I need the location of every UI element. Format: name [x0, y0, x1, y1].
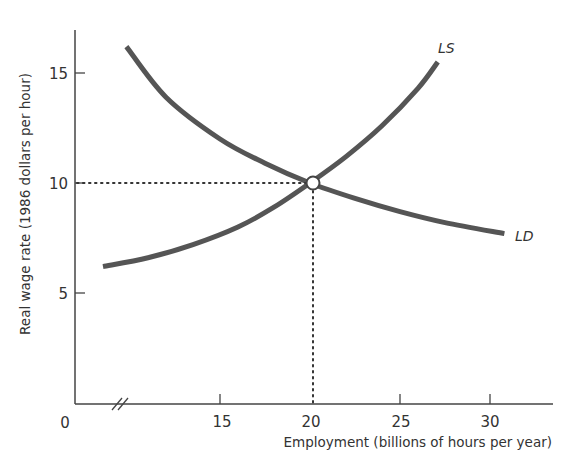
- y-tick-label: 10: [49, 175, 68, 193]
- y-tick-label: 15: [49, 65, 68, 83]
- origin-label: 0: [60, 414, 70, 432]
- x-tick-label: 30: [480, 413, 499, 431]
- x-tick-label: 20: [301, 413, 320, 431]
- y-tick-label: 5: [58, 285, 68, 303]
- y-ticks: 15 10 5: [49, 65, 85, 303]
- ld-curve: [126, 47, 504, 234]
- x-ticks: 15 20 25 30: [212, 394, 499, 431]
- y-axis-title: Real wage rate (1986 dollars per hour): [17, 73, 33, 335]
- x-tick-label: 15: [212, 413, 231, 431]
- x-tick-label: 25: [391, 413, 410, 431]
- ld-label: LD: [515, 228, 534, 244]
- labor-market-chart: 15 10 5 15 20 25 30 0 LS LD Employment (…: [0, 0, 570, 462]
- equilibrium-point: [307, 177, 320, 190]
- curves: [103, 47, 504, 267]
- x-axis-title: Employment (billions of hours per year): [284, 434, 552, 450]
- ls-label: LS: [438, 40, 455, 56]
